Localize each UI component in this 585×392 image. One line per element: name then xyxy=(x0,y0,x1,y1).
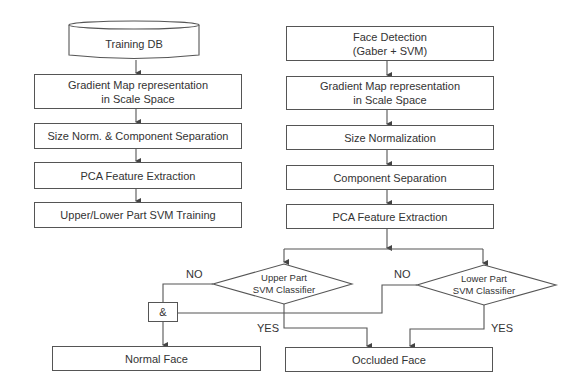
train-svm-training-box: Upper/Lower Part SVM Training xyxy=(34,202,242,228)
upper-yes-label: YES xyxy=(257,322,279,334)
detect-gradient-map-box: Gradient Map representation in Scale Spa… xyxy=(286,76,494,110)
and-gate-box: & xyxy=(148,302,178,322)
lower-classifier-label: Lower Part SVM Classifier xyxy=(444,273,524,297)
upper-no-label: NO xyxy=(186,268,203,280)
normal-face-box: Normal Face xyxy=(52,346,261,371)
size-normalization-box: Size Normalization xyxy=(286,125,494,150)
upper-classifier-label: Upper Part SVM Classifier xyxy=(244,272,324,296)
lower-yes-label: YES xyxy=(491,322,513,334)
lower-no-label: NO xyxy=(394,268,411,280)
face-detection-box: Face Detection (Gaber + SVM) xyxy=(286,26,494,61)
train-pca-box: PCA Feature Extraction xyxy=(34,162,242,189)
component-separation-box: Component Separation xyxy=(286,165,494,190)
occluded-face-box: Occluded Face xyxy=(285,347,493,372)
training-db-label: Training DB xyxy=(69,38,199,50)
train-size-norm-box: Size Norm. & Component Separation xyxy=(34,123,242,149)
detect-pca-box: PCA Feature Extraction xyxy=(286,204,494,229)
train-gradient-map-box: Gradient Map representation in Scale Spa… xyxy=(34,74,242,109)
